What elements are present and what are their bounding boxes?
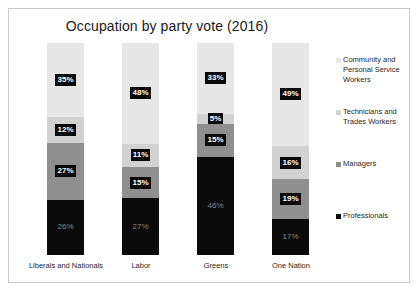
bar-segment-professionals[interactable]: 17% — [272, 219, 309, 255]
legend-item-technicians[interactable]: Technicians and Trades Workers — [336, 107, 406, 127]
bar-segment-technicians[interactable]: 11% — [122, 144, 159, 167]
legend-item-label: Community and Personal Service Workers — [343, 55, 406, 85]
segment-value-label: 11% — [131, 149, 151, 161]
bar-segment-professionals[interactable]: 27% — [122, 198, 159, 255]
segment-value-label: 15% — [130, 177, 150, 189]
x-tick-label: One Nation — [241, 261, 341, 270]
legend-swatch-icon — [336, 162, 341, 167]
legend-item-label: Professionals — [343, 211, 388, 221]
bar-segment-technicians[interactable]: 12% — [47, 117, 84, 142]
bar-segment-managers[interactable]: 15% — [197, 124, 234, 156]
bar-labor[interactable]: 48% 11% 15% 27% — [122, 43, 159, 255]
bar-segment-community[interactable]: 33% — [197, 43, 234, 114]
segment-value-label: 27% — [55, 165, 75, 177]
segment-value-label: 15% — [205, 134, 225, 146]
segment-value-label: 26% — [55, 221, 75, 233]
segment-value-label: 48% — [130, 87, 150, 99]
plot-area: 35% 12% 27% 26% 48% 11% 15% 27 — [25, 43, 325, 255]
segment-value-label: 27% — [130, 221, 150, 233]
segment-value-label: 49% — [280, 88, 300, 100]
segment-value-label: 16% — [280, 157, 300, 169]
bar-segment-community[interactable]: 35% — [47, 43, 84, 117]
bar-one-nation[interactable]: 49% 16% 19% 17% — [272, 43, 309, 255]
bar-segment-technicians[interactable]: 5% — [197, 114, 234, 125]
segment-value-label: 5% — [208, 113, 224, 125]
bar-greens[interactable]: 33% 5% 15% 46% — [197, 43, 234, 255]
segment-value-label: 33% — [205, 72, 225, 84]
bar-segment-technicians[interactable]: 16% — [272, 146, 309, 180]
bar-segment-community[interactable]: 49% — [272, 43, 309, 146]
bar-segment-managers[interactable]: 19% — [272, 179, 309, 219]
chart-title: Occupation by party vote (2016) — [9, 18, 325, 34]
x-axis-labels: Liberals and Nationals Labor Greens One … — [25, 261, 325, 277]
bar-segment-managers[interactable]: 27% — [47, 143, 84, 200]
legend-swatch-icon — [336, 110, 341, 115]
segment-value-label: 17% — [280, 231, 300, 243]
bar-liberals-and-nationals[interactable]: 35% 12% 27% 26% — [47, 43, 84, 255]
bar-segment-community[interactable]: 48% — [122, 43, 159, 144]
segment-value-label: 19% — [280, 193, 300, 205]
legend-item-managers[interactable]: Managers — [336, 159, 376, 169]
segment-value-label: 46% — [205, 200, 225, 212]
legend-swatch-icon — [336, 58, 341, 63]
legend-item-professionals[interactable]: Professionals — [336, 211, 388, 221]
segment-value-label: 35% — [55, 74, 75, 86]
bar-segment-managers[interactable]: 15% — [122, 167, 159, 198]
bar-segment-professionals[interactable]: 26% — [47, 200, 84, 255]
legend-item-label: Technicians and Trades Workers — [343, 107, 406, 127]
legend-item-label: Managers — [343, 159, 376, 169]
segment-value-label: 12% — [55, 124, 75, 136]
legend-item-community[interactable]: Community and Personal Service Workers — [336, 55, 406, 85]
chart-frame: Occupation by party vote (2016) 35% 12% … — [8, 8, 410, 283]
bar-segment-professionals[interactable]: 46% — [197, 157, 234, 256]
legend-swatch-icon — [336, 214, 341, 219]
